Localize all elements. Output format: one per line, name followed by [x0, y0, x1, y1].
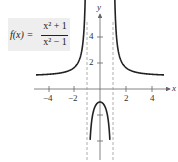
curve-right-branch — [114, 0, 164, 75]
x-tick-label: −2 — [68, 93, 78, 103]
formula-lhs: f(x) = — [10, 29, 33, 40]
x-axis-label: x — [172, 83, 176, 93]
y-tick-label: 2 — [89, 57, 94, 67]
function-formula: f(x) = x² + 1 x² − 1 — [10, 20, 70, 50]
y-tick-label: 4 — [89, 31, 94, 41]
x-tick-label: 4 — [150, 93, 155, 103]
x-tick-label: 2 — [124, 93, 129, 103]
y-axis-label: y — [97, 2, 101, 12]
x-tick-label: −4 — [43, 93, 53, 103]
formula-numerator: x² + 1 — [40, 20, 70, 31]
formula-denominator: x² − 1 — [40, 36, 70, 47]
